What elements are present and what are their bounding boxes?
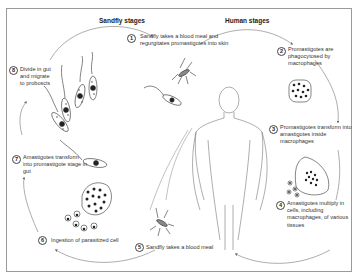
- step-4-number: 4: [276, 201, 285, 210]
- step-8-number: 8: [9, 66, 18, 75]
- step-1-number: 1: [127, 34, 136, 43]
- amastigote-icon: [287, 157, 329, 197]
- promastigote-icon: [144, 86, 183, 107]
- step-6-label: Ingestion of parasitized cell: [51, 237, 151, 244]
- parasitized-cell-icon: [65, 183, 111, 231]
- step-6-number: 6: [38, 236, 47, 245]
- step-5-number: 5: [135, 243, 144, 252]
- step-8-label: Divide in gut and migrate to proboscis: [20, 66, 54, 88]
- step-2-label: Promastigotes are phagocytosed by macrop…: [288, 46, 346, 68]
- step-4-label: Amastigotes multiply in cells, including…: [287, 200, 350, 229]
- macrophage-icon: [289, 80, 311, 102]
- step-3-label: Promastigotes transform into amastigotes…: [280, 124, 352, 146]
- step-3-number: 3: [269, 125, 278, 134]
- sandfly-icon: [172, 58, 196, 84]
- promastigote-icon: [44, 52, 97, 134]
- step-2-number: 2: [277, 47, 286, 56]
- sandfly-icon: [150, 208, 174, 236]
- step-7-label: Amastigotes transform into promastigote …: [23, 154, 88, 176]
- step-7-number: 7: [12, 155, 21, 164]
- step-5-label: Sandfly takes a blood meal: [146, 244, 246, 251]
- step-1-label: Sandfly takes a blood meal and regurgita…: [140, 33, 240, 47]
